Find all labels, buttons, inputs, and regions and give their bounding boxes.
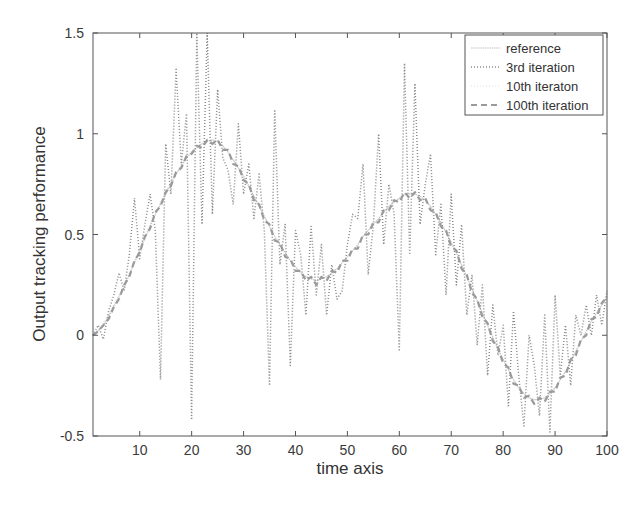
x-tick-label: 90 — [547, 442, 563, 458]
x-tick-label: 60 — [392, 442, 408, 458]
legend-label-reference: reference — [506, 41, 561, 56]
series-line-100th-iteration — [93, 140, 607, 404]
legend-label-3rd-iteration: 3rd iteration — [506, 60, 575, 75]
x-tick-label: 20 — [184, 442, 200, 458]
chart-figure: 102030405060708090100 -0.500.511.5 time … — [0, 0, 641, 506]
y-tick-label: 0 — [76, 327, 84, 343]
line-chart: 102030405060708090100 -0.500.511.5 time … — [0, 0, 641, 506]
y-tick-label: -0.5 — [60, 428, 84, 444]
x-tick-label: 30 — [236, 442, 252, 458]
x-tick-label: 40 — [288, 442, 304, 458]
x-tick-label: 100 — [595, 442, 619, 458]
x-tick-label: 10 — [132, 442, 148, 458]
y-axis-label: Output tracking performance — [30, 126, 49, 341]
x-tick-label: 70 — [443, 442, 459, 458]
legend: reference 3rd iteration 10th iteraton 10… — [465, 35, 603, 115]
x-axis-label: time axis — [316, 459, 383, 478]
series-line-10th-iteraton — [93, 140, 607, 400]
y-tick-label: 0.5 — [65, 227, 85, 243]
series-line-reference — [93, 140, 607, 400]
x-tick-label: 50 — [340, 442, 356, 458]
legend-label-100th-iteration: 100th iteration — [506, 98, 588, 113]
legend-label-10th-iteration: 10th iteraton — [506, 79, 578, 94]
x-tick-label: 80 — [495, 442, 511, 458]
y-tick-label: 1 — [76, 126, 84, 142]
y-tick-label: 1.5 — [65, 25, 85, 41]
